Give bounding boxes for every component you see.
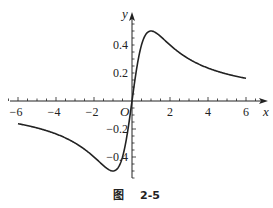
y-axis-label: y: [120, 6, 128, 21]
x-axis-label: x: [262, 104, 269, 119]
x-tick-label: 4: [205, 105, 211, 119]
x-tick-label: 6: [243, 105, 249, 119]
y-tick-label: 0.2: [113, 66, 128, 80]
x-tick-label: 2: [167, 105, 173, 119]
y-tick-label: −0.4: [106, 150, 128, 164]
figure-caption: 图2-5: [0, 186, 273, 202]
caption-prefix: 图: [113, 189, 124, 202]
origin-label: O: [120, 104, 130, 119]
x-tick-label: −2: [86, 105, 99, 119]
x-tick-label: −4: [48, 105, 61, 119]
caption-number: 2-5: [140, 189, 160, 202]
y-tick-label: 0.4: [113, 38, 128, 52]
tick-labels: −6−4−22460.40.2−0.2−0.4xyO: [10, 6, 269, 164]
x-tick-label: −6: [10, 105, 23, 119]
y-tick-label: −0.2: [106, 122, 128, 136]
axes: [10, 12, 268, 178]
function-plot: −6−4−22460.40.2−0.2−0.4xyO: [0, 0, 273, 185]
